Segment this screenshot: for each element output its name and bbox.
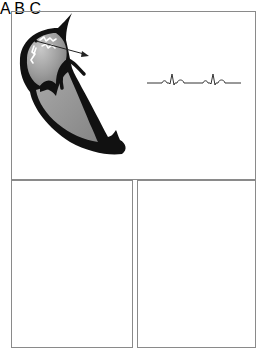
heart-a — [20, 13, 126, 155]
ecg-trace-a — [147, 74, 241, 85]
panel-c-frame — [138, 181, 256, 348]
panel-b-frame — [12, 181, 133, 348]
panel-a — [20, 13, 241, 155]
figure — [0, 0, 266, 360]
